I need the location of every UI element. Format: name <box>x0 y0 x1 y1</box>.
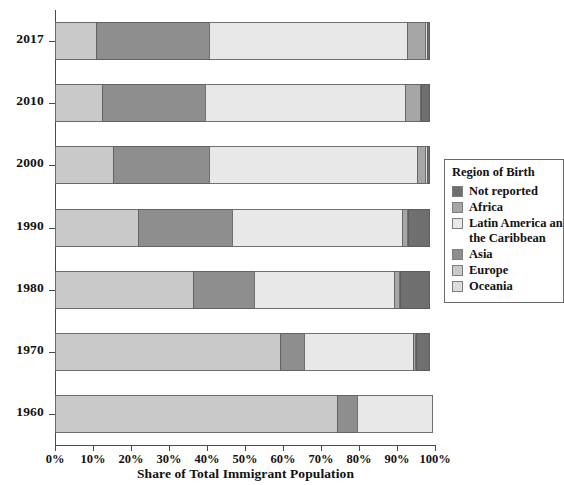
bar-segment[interactable] <box>55 146 114 184</box>
bar-segment[interactable] <box>337 395 358 433</box>
legend-item-label: Europe <box>469 264 508 277</box>
bar-segment[interactable] <box>427 22 430 60</box>
bar-segment[interactable] <box>209 22 409 60</box>
x-axis-tick-mark <box>207 445 208 451</box>
bar-segment[interactable] <box>55 271 194 309</box>
legend-swatch <box>452 249 463 260</box>
legend-item[interactable]: Asia <box>452 247 559 262</box>
bar-segment[interactable] <box>55 84 103 122</box>
bar-segment[interactable] <box>205 84 406 122</box>
stacked-bar[interactable] <box>55 84 435 122</box>
stacked-bar[interactable] <box>55 395 435 433</box>
x-axis-tick-label: 100% <box>419 453 450 466</box>
x-axis-tick-mark <box>169 445 170 451</box>
bar-segment[interactable] <box>113 146 210 184</box>
x-axis-tick-label: 60% <box>271 453 296 466</box>
x-axis-tick-mark <box>245 445 246 451</box>
bar-segment[interactable] <box>421 84 430 122</box>
stacked-bar[interactable] <box>55 209 435 247</box>
stacked-bar[interactable] <box>55 333 435 371</box>
legend-item-label: Not reported <box>469 185 538 198</box>
legend-item-label: Latin America an <box>469 217 563 230</box>
legend-item[interactable]: Europe <box>452 263 559 278</box>
x-axis-tick-label: 10% <box>81 453 106 466</box>
legend-item[interactable]: Africa <box>452 200 559 215</box>
stacked-bar[interactable] <box>55 146 435 184</box>
legend-item-label-continuation: the Caribbean <box>469 232 559 245</box>
legend-item-label: Asia <box>469 248 493 261</box>
bar-segment[interactable] <box>304 333 414 371</box>
x-axis-tick-mark <box>321 445 322 451</box>
bar-segment[interactable] <box>232 209 403 247</box>
legend: Region of Birth Not reportedAfricaLatin … <box>444 159 564 303</box>
x-axis-tick-mark <box>359 445 360 451</box>
y-axis-tick-label: 2010 <box>16 94 44 108</box>
x-axis-tick-label: 30% <box>157 453 182 466</box>
bar-segment[interactable] <box>96 22 210 60</box>
bar-segment[interactable] <box>138 209 233 247</box>
y-axis-tick-label: 1980 <box>16 281 44 295</box>
bar-segment[interactable] <box>55 395 338 433</box>
x-axis-title: Share of Total Immigrant Population <box>55 466 436 482</box>
y-axis-tick-label: 1970 <box>16 343 44 357</box>
y-axis-tick-label: 1990 <box>16 219 44 233</box>
legend-item[interactable]: Oceania <box>452 279 559 294</box>
legend-swatch <box>452 218 463 229</box>
y-axis-tick-label: 1960 <box>16 405 44 419</box>
x-axis-tick-mark <box>93 445 94 451</box>
x-axis-tick-label: 0% <box>46 453 65 466</box>
stacked-bar[interactable] <box>55 271 435 309</box>
bar-segment[interactable] <box>55 22 97 60</box>
bar-segment[interactable] <box>55 209 139 247</box>
bar-segment[interactable] <box>254 271 395 309</box>
legend-item-label: Oceania <box>469 280 513 293</box>
stacked-bar[interactable] <box>55 22 435 60</box>
x-axis-tick-label: 50% <box>233 453 258 466</box>
bar-segment[interactable] <box>416 333 431 371</box>
bar-segment[interactable] <box>400 271 430 309</box>
x-axis-tick-mark <box>397 445 398 451</box>
x-axis-tick-mark <box>131 445 132 451</box>
bar-segment[interactable] <box>407 22 426 60</box>
legend-swatch <box>452 281 463 292</box>
x-axis-tick-label: 40% <box>195 453 220 466</box>
y-axis-tick-label: 2000 <box>16 156 44 170</box>
x-axis-tick-label: 80% <box>347 453 372 466</box>
x-axis-tick-label: 70% <box>309 453 334 466</box>
legend-swatch <box>452 186 463 197</box>
bar-segment[interactable] <box>280 333 305 371</box>
x-axis-tick-label: 20% <box>119 453 144 466</box>
bar-segment[interactable] <box>408 209 430 247</box>
x-axis-tick-label: 90% <box>385 453 410 466</box>
bar-segment[interactable] <box>55 333 281 371</box>
bar-segment[interactable] <box>427 146 430 184</box>
legend-item[interactable]: Not reported <box>452 184 559 199</box>
x-axis-tick-mark <box>55 445 56 451</box>
bar-segment[interactable] <box>405 84 420 122</box>
legend-swatch <box>452 202 463 213</box>
legend-title: Region of Birth <box>452 165 559 180</box>
bar-segment[interactable] <box>209 146 418 184</box>
bar-segment[interactable] <box>102 84 207 122</box>
x-axis-tick-mark <box>435 445 436 451</box>
legend-item-group: Not reportedAfricaLatin America anthe Ca… <box>452 184 559 294</box>
legend-item-label: Africa <box>469 201 503 214</box>
y-axis-tick-label: 2017 <box>16 32 44 46</box>
bar-segment[interactable] <box>357 395 433 433</box>
legend-item[interactable]: Latin America an <box>452 216 559 231</box>
x-axis-tick-mark <box>283 445 284 451</box>
bar-segment[interactable] <box>193 271 256 309</box>
legend-swatch <box>452 265 463 276</box>
